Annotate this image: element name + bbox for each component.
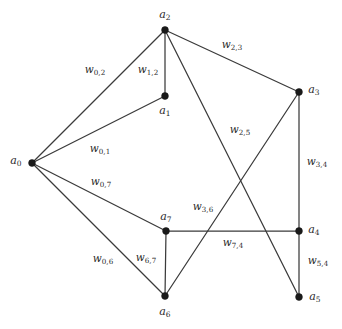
edge-weight-subscript: 6,7	[145, 256, 157, 265]
edge-weight-label: w6,7	[136, 252, 157, 264]
edge-weight-subscript: 3,4	[316, 160, 328, 169]
graph-vertex	[162, 27, 169, 34]
graph-vertex	[296, 294, 303, 301]
vertex-subscript: 0	[17, 159, 22, 168]
vertex-label: a4	[308, 224, 319, 237]
edge-weight-label: w5,4	[308, 255, 329, 267]
edge-weight-symbol: w	[230, 123, 239, 135]
edge-weight-symbol: w	[138, 63, 147, 75]
edge-weight-label: w0,2	[85, 64, 106, 76]
vertex-subscript: 3	[315, 88, 320, 97]
graph-vertex	[162, 93, 169, 100]
edge-layer	[32, 30, 299, 297]
edge-weight-label: w2,3	[222, 39, 243, 51]
edge-weight-symbol: w	[193, 200, 202, 212]
edge-weight-label: w7,4	[223, 237, 244, 249]
graph-edge	[165, 30, 299, 297]
graph-vertex	[163, 228, 170, 235]
edge-weight-label: w0,6	[93, 253, 114, 265]
vertex-subscript: 6	[166, 310, 171, 319]
vertex-subscript: 5	[316, 295, 321, 304]
edge-weight-label: w2,5	[230, 124, 251, 136]
edge-weight-subscript: 0,6	[102, 257, 114, 266]
vertex-label: a7	[160, 211, 171, 224]
vertex-subscript: 2	[166, 13, 171, 22]
vertex-subscript: 7	[167, 215, 172, 224]
graph-vertex	[29, 160, 36, 167]
vertex-label: a3	[308, 84, 319, 97]
edge-weight-symbol: w	[91, 175, 100, 187]
edge-weight-subscript: 2,5	[239, 128, 251, 137]
edge-weight-label: w3,4	[307, 156, 328, 168]
graph-figure: w0,2w1,2w2,3w2,5w0,1w0,7w0,6w6,7w3,6w7,4…	[0, 0, 342, 329]
edge-weight-symbol: w	[223, 236, 232, 248]
edge-weight-subscript: 0,1	[99, 147, 111, 156]
vertex-label: a1	[159, 105, 170, 118]
edge-weight-symbol: w	[308, 254, 317, 266]
graph-vertex	[162, 293, 169, 300]
vertex-label: a5	[309, 291, 320, 304]
edge-weight-symbol: w	[93, 252, 102, 264]
vertex-subscript: 1	[166, 109, 171, 118]
graph-canvas	[0, 0, 342, 329]
edge-weight-symbol: w	[90, 142, 99, 154]
edge-weight-subscript: 2,3	[231, 43, 243, 52]
graph-edge	[165, 231, 166, 296]
edge-weight-subscript: 0,7	[100, 180, 112, 189]
edge-weight-subscript: 7,4	[232, 241, 244, 250]
edge-weight-subscript: 1,2	[147, 68, 159, 77]
edge-weight-symbol: w	[222, 38, 231, 50]
edge-weight-subscript: 0,2	[94, 68, 106, 77]
vertex-subscript: 4	[315, 228, 320, 237]
edge-weight-label: w1,2	[138, 64, 159, 76]
vertex-label: a0	[10, 155, 21, 168]
edge-weight-subscript: 3,6	[202, 205, 214, 214]
edge-weight-subscript: 5,4	[317, 259, 329, 268]
graph-edge	[32, 163, 166, 231]
vertex-label: a2	[159, 9, 170, 22]
edge-weight-symbol: w	[136, 251, 145, 263]
edge-weight-label: w0,1	[90, 143, 111, 155]
edge-weight-symbol: w	[307, 155, 316, 167]
vertex-label: a6	[159, 306, 170, 319]
edge-weight-symbol: w	[85, 63, 94, 75]
edge-weight-label: w0,7	[91, 176, 112, 188]
edge-weight-label: w3,6	[193, 201, 214, 213]
graph-vertex	[296, 228, 303, 235]
graph-vertex	[296, 89, 303, 96]
